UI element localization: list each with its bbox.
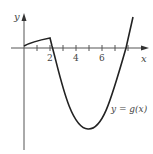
y-axis-arrow-icon — [22, 13, 27, 21]
graph-of-g: y x 2 4 6 y = g(x) — [0, 0, 153, 154]
x-axis-label: x — [141, 53, 147, 64]
tick-label-6: 6 — [99, 53, 105, 63]
x-axis-arrow-icon — [141, 46, 149, 51]
function-label: y = g(x) — [110, 104, 148, 114]
y-axis-label: y — [13, 11, 20, 22]
tick-label-2: 2 — [47, 53, 53, 63]
tick-label-4: 4 — [73, 53, 79, 63]
